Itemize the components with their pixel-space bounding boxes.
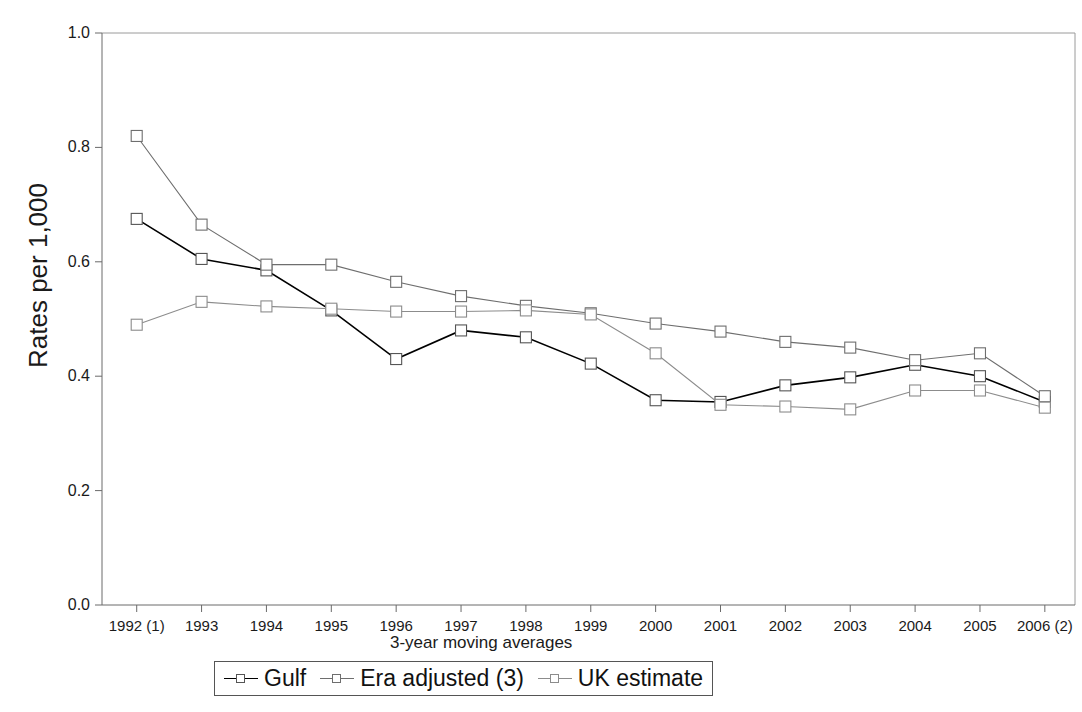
data-point-marker	[131, 213, 142, 224]
data-point-marker	[585, 309, 596, 320]
data-point-marker	[650, 318, 661, 329]
data-point-marker	[780, 336, 791, 347]
plot-area	[0, 0, 1082, 712]
data-point-marker	[910, 385, 921, 396]
legend-entry: Gulf	[224, 667, 306, 690]
legend-label: UK estimate	[578, 667, 703, 690]
data-point-marker	[391, 306, 402, 317]
data-point-marker	[974, 348, 985, 359]
data-point-marker	[131, 130, 142, 141]
legend-marker-icon	[538, 672, 572, 686]
data-point-marker	[520, 332, 531, 343]
data-point-marker	[715, 399, 726, 410]
data-point-marker	[1039, 402, 1050, 413]
legend-label: Gulf	[264, 667, 306, 690]
data-point-marker	[780, 401, 791, 412]
data-point-marker	[780, 380, 791, 391]
data-point-marker	[910, 355, 921, 366]
chart-container: y Rates per 1,000 3-year moving averages…	[0, 0, 1082, 712]
data-point-marker	[845, 404, 856, 415]
legend-label: Era adjusted (3)	[360, 667, 524, 690]
data-point-marker	[391, 276, 402, 287]
legend-entry: Era adjusted (3)	[320, 667, 524, 690]
data-point-marker	[196, 296, 207, 307]
data-point-marker	[196, 219, 207, 230]
data-point-marker	[715, 326, 726, 337]
data-point-marker	[520, 305, 531, 316]
data-point-marker	[585, 358, 596, 369]
data-point-marker	[456, 325, 467, 336]
data-point-marker	[1039, 391, 1050, 402]
data-point-marker	[974, 385, 985, 396]
chart-legend: GulfEra adjusted (3)UK estimate	[214, 661, 713, 696]
data-point-marker	[196, 253, 207, 264]
legend-entry: UK estimate	[538, 667, 703, 690]
data-point-marker	[845, 372, 856, 383]
data-point-marker	[261, 259, 272, 270]
data-point-marker	[131, 319, 142, 330]
data-point-marker	[650, 348, 661, 359]
data-point-marker	[261, 301, 272, 312]
legend-marker-icon	[320, 672, 354, 686]
data-point-marker	[974, 371, 985, 382]
data-point-marker	[650, 395, 661, 406]
data-point-marker	[845, 342, 856, 353]
data-point-marker	[456, 306, 467, 317]
legend-marker-icon	[224, 672, 258, 686]
data-point-marker	[456, 291, 467, 302]
data-point-marker	[391, 354, 402, 365]
data-point-marker	[326, 303, 337, 314]
data-point-marker	[326, 259, 337, 270]
